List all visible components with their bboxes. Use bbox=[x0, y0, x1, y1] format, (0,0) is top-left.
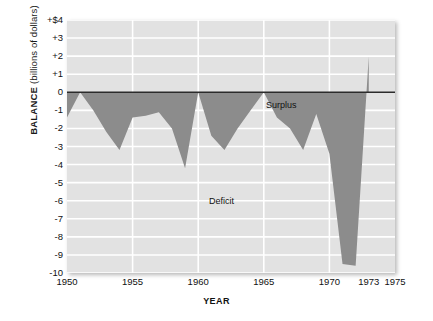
y-tick-label: +3 bbox=[29, 33, 63, 43]
deficit-annotation: Deficit bbox=[209, 196, 234, 206]
x-axis-title: YEAR bbox=[0, 296, 433, 306]
plot-area: Surplus Deficit bbox=[67, 20, 395, 273]
y-tick-label: +2 bbox=[29, 51, 63, 61]
y-tick-label: -7 bbox=[29, 214, 63, 224]
y-tick-label: +1 bbox=[29, 69, 63, 79]
y-tick-label: -1 bbox=[29, 105, 63, 115]
x-tick-label: 1973 bbox=[358, 276, 379, 287]
chart-svg bbox=[67, 20, 395, 273]
y-tick-label: -8 bbox=[29, 232, 63, 242]
y-tick-label: -6 bbox=[29, 196, 63, 206]
x-tick-label: 1950 bbox=[56, 276, 77, 287]
surplus-annotation: Surplus bbox=[266, 100, 297, 110]
y-tick-label: 0 bbox=[29, 87, 63, 97]
x-tick-label: 1975 bbox=[384, 276, 405, 287]
chart-figure: BALANCE (billions of dollars) +$4+3+2+10… bbox=[0, 0, 433, 321]
y-tick-label: -2 bbox=[29, 123, 63, 133]
y-tick-label: -9 bbox=[29, 250, 63, 260]
y-tick-label: +$4 bbox=[29, 15, 63, 25]
x-tick-label: 1965 bbox=[253, 276, 274, 287]
y-axis-ticks: +$4+3+2+10-1-2-3-4-5-6-7-8-9-10 bbox=[27, 0, 63, 321]
y-tick-label: -3 bbox=[29, 142, 63, 152]
x-tick-label: 1970 bbox=[319, 276, 340, 287]
x-tick-label: 1955 bbox=[122, 276, 143, 287]
deficit-area bbox=[67, 56, 369, 266]
x-axis-ticks: 1950195519601965197019731975 bbox=[0, 276, 433, 292]
x-tick-label: 1960 bbox=[188, 276, 209, 287]
y-tick-label: -5 bbox=[29, 178, 63, 188]
y-tick-label: -4 bbox=[29, 160, 63, 170]
